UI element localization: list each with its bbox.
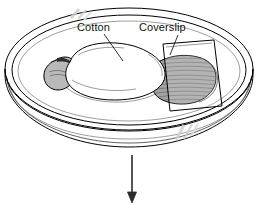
figure-root: Cotton Coverslip — [0, 0, 258, 206]
process-arrow — [128, 155, 137, 203]
diagram-canvas: Cotton Coverslip — [0, 0, 258, 206]
label-cotton: Cotton — [77, 21, 110, 33]
arrow-head — [128, 192, 137, 203]
label-coverslip: Coverslip — [139, 21, 186, 33]
cotton-wad — [66, 43, 165, 100]
